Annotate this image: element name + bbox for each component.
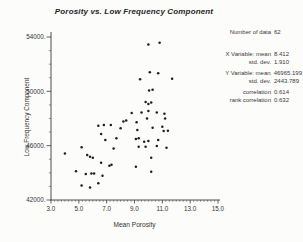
stat-row: X Variable: mean8.412: [218, 50, 302, 58]
stat-label: rank correlation: [218, 96, 271, 104]
data-point: [149, 71, 152, 74]
data-point: [97, 124, 100, 127]
data-point: [75, 170, 78, 173]
data-point: [156, 111, 159, 114]
stat-value: 0.614: [274, 88, 289, 96]
data-point: [97, 182, 100, 185]
stat-row: rank correlation0.632: [218, 96, 302, 104]
stat-label: X Variable: mean: [218, 50, 271, 58]
data-point: [150, 170, 153, 173]
stat-label: std. dev.: [218, 77, 271, 85]
data-point: [143, 140, 146, 143]
x-tick-label: 5.0: [74, 205, 83, 212]
data-point: [165, 146, 168, 149]
stat-row: correlation0.614: [218, 88, 302, 96]
x-tick-label: 11.0: [156, 205, 168, 212]
data-point: [93, 172, 96, 175]
data-point: [119, 127, 122, 130]
data-point: [80, 184, 83, 187]
stat-row: std. dev.1.910: [218, 58, 302, 66]
stat-value: 8.412: [274, 50, 289, 58]
data-point: [150, 157, 153, 160]
stats-panel: Number of data62X Variable: mean8.412std…: [218, 28, 302, 104]
data-point: [150, 101, 153, 104]
stat-row: Y Variable: mean46965.199: [218, 69, 302, 77]
data-point: [101, 175, 104, 178]
data-point: [147, 140, 150, 143]
stat-value: 1.910: [274, 58, 289, 66]
data-point: [112, 147, 115, 150]
data-point: [115, 137, 118, 140]
stat-row: Number of data62: [218, 28, 302, 36]
x-tick-label: 13.0: [184, 205, 197, 212]
data-point: [122, 120, 125, 123]
data-point: [130, 112, 133, 115]
data-point: [144, 146, 147, 149]
data-point: [110, 163, 113, 166]
y-tick-label: 42000.: [26, 196, 46, 203]
data-point: [139, 78, 142, 81]
data-point: [136, 129, 139, 132]
data-point: [89, 186, 92, 189]
data-point: [140, 111, 143, 114]
data-point: [137, 137, 140, 140]
data-point: [85, 173, 88, 176]
data-point: [147, 110, 150, 113]
stat-row: std. dev.2443.789: [218, 77, 302, 85]
data-point: [135, 165, 138, 168]
stat-label: correlation: [218, 88, 271, 96]
data-point: [90, 172, 93, 175]
data-point: [171, 77, 174, 80]
data-point: [167, 129, 170, 132]
data-point: [89, 155, 92, 158]
data-point: [158, 41, 161, 44]
data-point: [135, 138, 138, 141]
y-tick-label: 54000.: [26, 33, 46, 40]
data-point: [104, 139, 107, 142]
y-axis-label: Low Frequency Component: [23, 78, 31, 157]
data-point: [144, 101, 147, 104]
data-point: [163, 112, 166, 115]
data-point: [137, 146, 140, 149]
stat-value: 2443.789: [274, 77, 299, 85]
stat-value: 0.632: [274, 96, 289, 104]
data-point: [100, 133, 103, 136]
data-point: [135, 121, 138, 124]
x-tick-label: 15.0: [212, 205, 225, 212]
data-point: [86, 154, 89, 157]
data-point: [64, 152, 67, 155]
data-point: [80, 146, 83, 149]
data-point: [100, 162, 103, 165]
data-point: [151, 88, 154, 91]
data-point: [147, 103, 150, 106]
data-point: [146, 117, 149, 120]
stat-label: std. dev.: [218, 58, 271, 66]
data-point: [148, 89, 151, 92]
data-point: [125, 119, 128, 122]
stat-value: 46965.199: [274, 69, 302, 77]
data-point: [110, 124, 113, 127]
data-point: [157, 139, 160, 142]
x-tick-label: 3.0: [47, 205, 56, 212]
x-axis-label: Mean Porosity: [113, 221, 156, 229]
scatter-plot-figure: Porosity vs. Low Frequency Component 3.0…: [0, 0, 303, 242]
stat-label: Number of data: [218, 28, 271, 36]
data-point: [164, 117, 167, 120]
x-tick-label: 9.0: [130, 205, 139, 212]
data-point: [147, 43, 150, 46]
data-point: [92, 157, 95, 160]
data-point: [156, 145, 159, 148]
data-point: [157, 72, 160, 75]
stat-label: Y Variable: mean: [218, 69, 271, 77]
stat-value: 62: [274, 28, 281, 36]
data-point: [161, 125, 164, 128]
x-tick-label: 7.0: [102, 205, 111, 212]
data-point: [151, 126, 154, 129]
data-point: [103, 124, 106, 127]
data-point: [162, 130, 165, 133]
